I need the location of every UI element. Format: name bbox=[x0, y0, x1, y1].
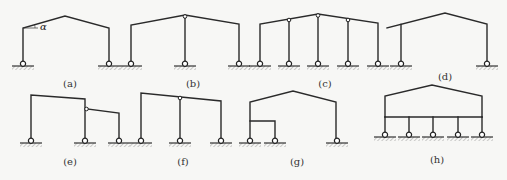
panel-label-b: (b) bbox=[186, 78, 200, 89]
pin-support-icon bbox=[422, 132, 444, 141]
pin-support-icon bbox=[476, 61, 498, 70]
pin-support-icon bbox=[228, 61, 250, 70]
panel-label-f: (f) bbox=[177, 156, 189, 167]
panel-label-c: (c) bbox=[318, 78, 332, 89]
pin-support-icon bbox=[447, 132, 469, 141]
pin-support-icon bbox=[20, 138, 42, 147]
pin-support-icon bbox=[374, 132, 396, 141]
pin-support-icon bbox=[174, 61, 196, 70]
hinge-icon bbox=[183, 15, 187, 19]
panel-c: (c) bbox=[249, 14, 389, 89]
pin-support-icon bbox=[326, 138, 348, 147]
hinge-icon bbox=[316, 14, 320, 18]
panel-e: (e) bbox=[20, 95, 130, 167]
panel-g: (g) bbox=[239, 91, 348, 167]
pin-support-icon bbox=[337, 61, 359, 70]
panel-label-g: (g) bbox=[290, 156, 304, 167]
panel-f: (f) bbox=[130, 93, 232, 167]
pin-support-icon bbox=[98, 61, 120, 70]
hinge-icon bbox=[287, 18, 291, 22]
panel-a: α (a) bbox=[12, 16, 120, 89]
pin-support-icon bbox=[264, 138, 286, 147]
panel-label-e: (e) bbox=[63, 156, 77, 167]
pin-support-icon bbox=[367, 61, 389, 70]
pin-support-icon bbox=[74, 138, 96, 147]
hinge-icon bbox=[178, 96, 182, 100]
panel-d: (d) bbox=[387, 13, 498, 82]
panel-label-a: (a) bbox=[63, 78, 77, 89]
pin-support-icon bbox=[390, 61, 412, 70]
pin-support-icon bbox=[471, 132, 493, 141]
pin-support-icon bbox=[120, 61, 142, 70]
pin-support-icon bbox=[108, 138, 130, 147]
pin-support-icon bbox=[169, 138, 191, 147]
panel-label-h: (h) bbox=[430, 154, 444, 165]
hinge-icon bbox=[346, 18, 350, 22]
pin-support-icon bbox=[278, 61, 300, 70]
hinge-icon bbox=[85, 107, 89, 111]
angle-alpha-label: α bbox=[40, 21, 47, 32]
pin-support-icon bbox=[249, 61, 271, 70]
pin-support-icon bbox=[130, 138, 152, 147]
pin-support-icon bbox=[210, 138, 232, 147]
pin-support-icon bbox=[12, 61, 34, 70]
pin-support-icon bbox=[239, 138, 261, 147]
frame-diagrams: α (a) (b) (c) (d) bbox=[0, 0, 507, 180]
pin-support-icon bbox=[398, 132, 420, 141]
panel-b: (b) bbox=[120, 15, 250, 89]
panel-h: (h) bbox=[374, 85, 493, 165]
pin-support-icon bbox=[307, 61, 329, 70]
panel-label-d: (d) bbox=[438, 71, 452, 82]
